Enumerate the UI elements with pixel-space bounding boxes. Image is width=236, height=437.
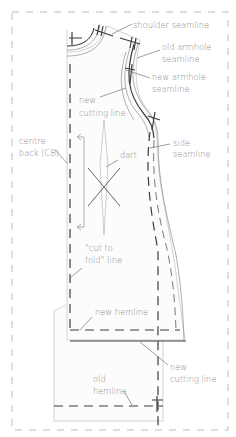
- label-old-hemline-2: hemline: [93, 386, 126, 396]
- label-new-hemline: new hemline: [95, 307, 148, 317]
- label-new-cutting-bottom: new: [170, 362, 187, 372]
- label-new-cutting-bottom-2: cutting line: [170, 374, 216, 384]
- neck-marker: [69, 32, 82, 45]
- label-centre-back: centre: [19, 136, 46, 146]
- pattern-alteration-diagram: shoulder seamline old armhole seamline n…: [0, 0, 236, 437]
- leader-old-armhole: [137, 50, 160, 58]
- label-dart: dart: [120, 150, 137, 160]
- label-side-2: seamline: [173, 149, 211, 159]
- label-cut-to-fold-2: fold" line: [85, 255, 122, 265]
- label-cut-to-fold: "cut to: [85, 243, 113, 253]
- label-old-armhole-2: seamline: [162, 54, 200, 64]
- label-shoulder-seamline: shoulder seamline: [133, 20, 209, 30]
- label-centre-back-2: back (CB): [19, 148, 59, 158]
- label-new-cutting-top-2: cutting line: [79, 108, 125, 118]
- label-new-armhole-2: seamline: [152, 84, 190, 94]
- label-new-armhole: new armhole: [152, 72, 206, 82]
- label-side: side: [173, 138, 190, 148]
- label-old-hemline: old: [93, 374, 106, 384]
- label-old-armhole: old armhole: [162, 42, 211, 52]
- label-new-cutting-top: new: [79, 95, 96, 105]
